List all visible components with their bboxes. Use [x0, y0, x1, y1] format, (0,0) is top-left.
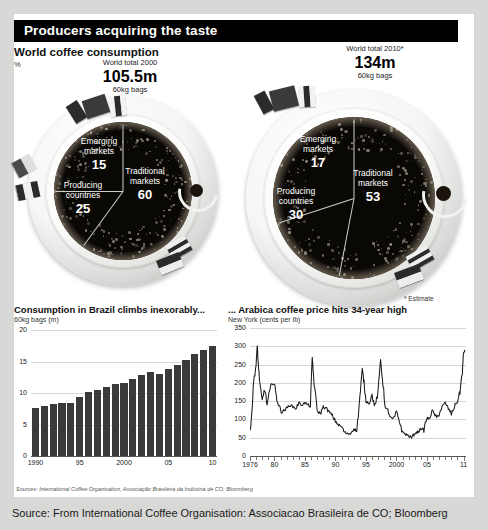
bar [209, 346, 216, 456]
line-plot-area: 0501001502002503003501976808590952000051… [250, 328, 466, 456]
bar [76, 397, 83, 456]
bar [182, 360, 189, 456]
line-x-tick-label: 90 [320, 461, 350, 468]
page-title: Producers acquiring the taste [24, 23, 217, 38]
line-x-tick-label: 95 [351, 461, 381, 468]
title-bar: Producers acquiring the taste [14, 20, 458, 42]
country-flag-icon [298, 85, 315, 107]
line-y-tick-label: 150 [228, 397, 246, 404]
sources-line: Sources: International Coffee Organisati… [16, 486, 253, 492]
bar-chart-panel: Consumption in Brazil climbs inexorably.… [14, 304, 219, 484]
pie-2010-slice-traditional: Traditional markets 53 [340, 168, 406, 204]
line-chart-subtitle: New York (cents per lb) [228, 316, 300, 323]
line-x-minor-tick [378, 457, 379, 460]
bar [50, 404, 57, 456]
line-x-minor-tick [317, 457, 318, 460]
pie-2010-traditional-line2: markets [340, 178, 406, 188]
bar-gridline [31, 330, 217, 331]
bar [156, 374, 163, 456]
bar [58, 403, 65, 456]
line-x-minor-tick [451, 457, 452, 460]
line-x-minor-tick [342, 457, 343, 460]
pie-2000-producing-line1: Producing [52, 180, 114, 190]
line-y-tick-label: 50 [228, 434, 246, 441]
bar-y-tick-label: 15 [13, 358, 27, 365]
line-x-minor-tick [439, 457, 440, 460]
bar [200, 350, 207, 456]
line-x-tick-label: 80 [259, 461, 289, 468]
line-x-minor-tick [293, 457, 294, 460]
bar-x-tick-label: 10 [198, 459, 228, 466]
pie-2000-slice-producing: Producing countries 25 [52, 180, 114, 216]
total-2010-block: World total 2010* 134m 60kg bags [305, 44, 445, 81]
line-y-tick-label: 300 [228, 342, 246, 349]
bar [94, 390, 101, 456]
infographic-page: Producers acquiring the taste World coff… [0, 0, 488, 530]
line-chart-panel: ... Arabica coffee price hits 34-year hi… [228, 304, 472, 484]
pie-2010-producing-value: 30 [264, 207, 328, 222]
figure-caption: Source: From International Coffee Organi… [12, 507, 448, 519]
line-x-minor-tick [354, 457, 355, 460]
bar-chart-title: Consumption in Brazil climbs inexorably.… [14, 304, 205, 315]
pie-2010-traditional-value: 53 [340, 189, 406, 204]
line-x-tick-label: 85 [290, 461, 320, 468]
bar [191, 354, 198, 456]
line-x-minor-tick [433, 457, 434, 460]
line-y-tick-label: 350 [228, 324, 246, 331]
bar [112, 384, 119, 456]
bar-y-tick-label: 10 [13, 389, 27, 396]
bar-y-tick-label: 5 [13, 421, 27, 428]
line-x-minor-tick [268, 457, 269, 460]
pie-2000-emerging-line2: markets [70, 146, 128, 156]
coffee-cup-pie-2010: Traditional markets 53 Emerging markets … [240, 80, 480, 305]
pie-2000-slice-emerging: Emerging markets 15 [70, 136, 128, 172]
line-chart-title: ... Arabica coffee price hits 34-year hi… [228, 304, 407, 315]
line-y-tick-label: 200 [228, 379, 246, 386]
pie-2010-producing-line2: countries [264, 196, 328, 206]
line-y-tick-label: 0 [228, 452, 246, 459]
total-2010-label: World total 2010* [305, 44, 445, 54]
total-2000-value: 105.5m [60, 68, 200, 85]
estimate-footnote: * Estimate [404, 295, 434, 302]
line-x-minor-tick [256, 457, 257, 460]
pie-2000-emerging-line1: Emerging [70, 136, 128, 146]
line-x-minor-tick [384, 457, 385, 460]
bar-x-tick-label: 95 [65, 459, 95, 466]
line-x-tick-label: 05 [412, 461, 442, 468]
bar-y-tick-label: 20 [13, 326, 27, 333]
country-flag-icon [109, 95, 127, 117]
pie-2000-traditional-line2: markets [114, 176, 176, 186]
line-x-minor-tick [403, 457, 404, 460]
bar [67, 403, 74, 456]
coffee-bean-right [436, 186, 451, 201]
line-x-minor-tick [409, 457, 410, 460]
line-x-minor-tick [360, 457, 361, 460]
bar-x-tick-label: 1990 [20, 459, 50, 466]
line-x-minor-tick [281, 457, 282, 460]
coffee-bean-left [190, 184, 203, 197]
line-x-minor-tick [457, 457, 458, 460]
bar-axis-baseline [31, 456, 217, 457]
bar [103, 387, 110, 456]
bar [129, 379, 136, 456]
line-x-minor-tick [390, 457, 391, 460]
line-x-tick-label: 11 [449, 461, 479, 468]
pie-2010-traditional-line1: Traditional [340, 168, 406, 178]
bar [41, 406, 48, 456]
bar [120, 383, 127, 456]
unit-percent-label: % [14, 60, 21, 69]
bar-x-tick-label: 05 [153, 459, 183, 466]
total-2000-label: World total 2000 [60, 58, 200, 68]
line-x-minor-tick [329, 457, 330, 460]
line-x-minor-tick [445, 457, 446, 460]
line-x-minor-tick [421, 457, 422, 460]
line-x-minor-tick [323, 457, 324, 460]
line-x-minor-tick [262, 457, 263, 460]
line-x-minor-tick [311, 457, 312, 460]
bar [165, 369, 172, 456]
section-title-world-consumption: World coffee consumption [14, 46, 159, 58]
coffee-cup-pie-2000: Traditional markets 60 Emerging markets … [18, 88, 233, 293]
bar [32, 408, 39, 456]
flag-stripe [309, 85, 316, 106]
pie-2010-slice-producing: Producing countries 30 [264, 186, 328, 222]
